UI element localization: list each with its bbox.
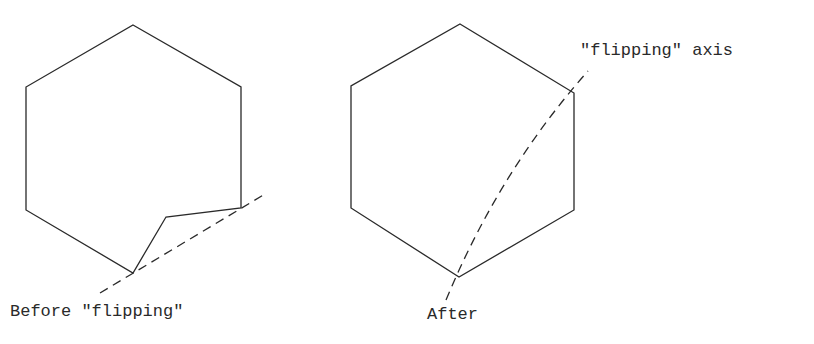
left-panel [26,25,265,293]
hexagon-after-flip [351,24,574,277]
flipping-axis-after [446,71,588,300]
flipping-axis-label: "flipping" axis [580,42,733,59]
hexagon-before-flip [26,25,241,273]
caption-before-flipping: Before "flipping" [10,303,183,320]
right-panel [351,24,588,300]
caption-after: After [427,306,478,323]
flipping-axis-before [100,194,265,293]
